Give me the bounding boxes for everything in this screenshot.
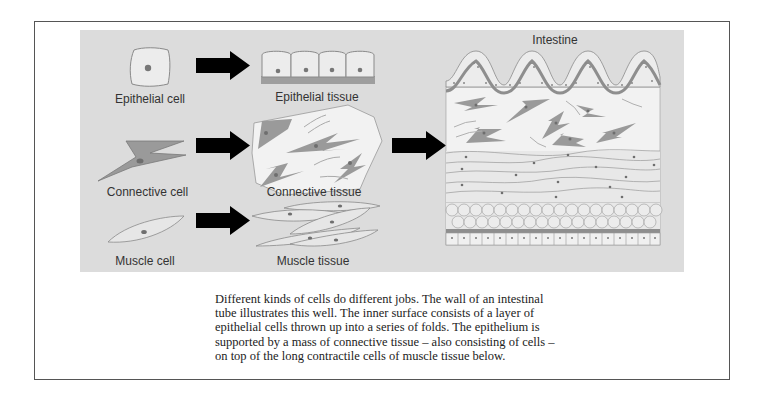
connective-cell-label: Connective cell [100, 185, 195, 199]
intestine-label: Intestine [510, 33, 600, 47]
arrow-right-icon [196, 131, 250, 160]
connective-tissue-illustration [248, 103, 384, 195]
epithelial-tissue-illustration [260, 49, 376, 89]
connective-cell-illustration [96, 137, 188, 183]
muscle-cell-illustration [106, 214, 186, 246]
arrow-right-icon [196, 51, 250, 80]
figure-caption: Different kinds of cells do different jo… [215, 292, 560, 363]
arrow-right-icon [196, 206, 250, 235]
connective-tissue-label: Connective tissue [254, 185, 374, 199]
epithelial-cell-illustration [128, 47, 172, 87]
intestine-cross-section-illustration [446, 47, 660, 247]
muscle-cell-label: Muscle cell [100, 254, 190, 268]
epithelial-tissue-label: Epithelial tissue [262, 90, 372, 104]
epithelial-cell-label: Epithelial cell [105, 92, 195, 106]
muscle-tissue-label: Muscle tissue [258, 254, 368, 268]
arrow-right-icon [392, 131, 446, 160]
muscle-tissue-illustration [250, 200, 384, 252]
